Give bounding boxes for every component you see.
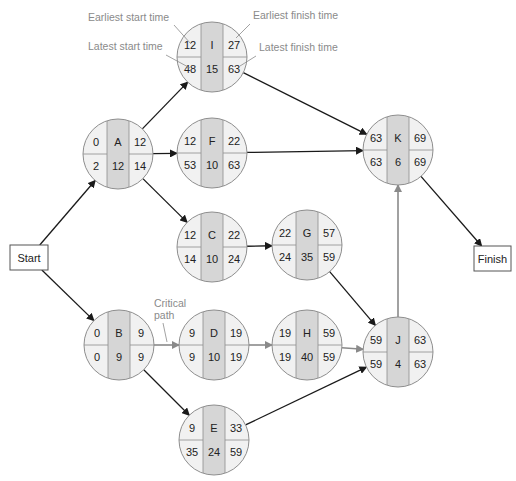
- edge-k-to-finish: [421, 176, 482, 246]
- node-c-latest-start: 14: [184, 253, 196, 265]
- edge-h-to-j-critical: [342, 348, 363, 350]
- node-e-latest-start: 35: [186, 446, 198, 458]
- node-e-earliest-start: 9: [189, 422, 195, 434]
- earliest-finish-label: Earliest finish time: [253, 9, 338, 21]
- node-j-latest-finish: 63: [414, 358, 426, 370]
- node-k-earliest-finish: 69: [414, 132, 426, 144]
- node-b-earliest-finish: 9: [138, 327, 144, 339]
- node-e-activity-label: E: [210, 422, 217, 434]
- critical-path-pointer: [163, 323, 167, 342]
- node-c-duration: 10: [206, 253, 218, 265]
- node-i-latest-start: 48: [184, 63, 196, 75]
- node-f-earliest-start: 12: [184, 135, 196, 147]
- start-box: Start: [10, 245, 48, 270]
- edge-b-to-e: [144, 370, 190, 416]
- node-e-duration: 24: [208, 446, 220, 458]
- node-j-activity-label: J: [395, 334, 401, 346]
- node-e-earliest-finish: 33: [230, 422, 242, 434]
- edge-a-to-i: [142, 82, 187, 129]
- node-k-activity-label: K: [394, 132, 402, 144]
- critical-path-label-line2: path: [154, 309, 175, 321]
- node-g-earliest-finish: 57: [323, 227, 335, 239]
- node-d-latest-start: 9: [189, 351, 195, 363]
- earliest-start-label: Earliest start time: [88, 11, 169, 23]
- activity-node-a: 0A1221214: [83, 119, 153, 189]
- node-f-earliest-finish: 22: [228, 135, 240, 147]
- node-k-latest-start: 63: [370, 156, 382, 168]
- activity-node-c: 12C22141024: [177, 212, 247, 282]
- node-f-duration: 10: [206, 159, 218, 171]
- activity-node-g: 22G57243559: [272, 210, 342, 280]
- node-j-latest-start: 59: [370, 358, 382, 370]
- node-i-activity-label: I: [210, 39, 213, 51]
- node-h-latest-start: 19: [279, 351, 291, 363]
- edge-f-to-k: [247, 151, 363, 153]
- node-j-duration: 4: [395, 358, 401, 370]
- activity-node-b: 0B9099: [84, 310, 154, 380]
- earliest-finish-pointer: [236, 24, 250, 38]
- node-h-activity-label: H: [303, 327, 311, 339]
- latest-finish-label: Latest finish time: [259, 41, 338, 53]
- node-g-duration: 35: [301, 251, 313, 263]
- node-h-earliest-finish: 59: [323, 327, 335, 339]
- node-c-activity-label: C: [208, 229, 216, 241]
- node-d-earliest-finish: 19: [230, 327, 242, 339]
- node-i-earliest-finish: 27: [228, 39, 240, 51]
- node-d-duration: 10: [208, 351, 220, 363]
- latest-start-label: Latest start time: [88, 40, 163, 52]
- node-h-earliest-start: 19: [279, 327, 291, 339]
- node-j-earliest-start: 59: [370, 334, 382, 346]
- node-b-activity-label: B: [115, 327, 122, 339]
- node-a-earliest-start: 0: [93, 136, 99, 148]
- edge-start-to-a: [40, 181, 95, 245]
- node-i-duration: 15: [206, 63, 218, 75]
- node-a-latest-finish: 14: [134, 160, 146, 172]
- finish-box: Finish: [474, 246, 511, 271]
- activity-node-h: 19H59194059: [272, 310, 342, 380]
- edge-g-to-j: [330, 272, 376, 326]
- node-a-duration: 12: [112, 160, 124, 172]
- node-h-latest-finish: 59: [323, 351, 335, 363]
- node-k-earliest-start: 63: [370, 132, 382, 144]
- node-a-earliest-finish: 12: [134, 136, 146, 148]
- node-b-earliest-start: 0: [94, 327, 100, 339]
- node-j-earliest-finish: 63: [414, 334, 426, 346]
- node-g-earliest-start: 22: [279, 227, 291, 239]
- node-e-latest-finish: 59: [230, 446, 242, 458]
- node-d-activity-label: D: [210, 327, 218, 339]
- node-g-activity-label: G: [303, 227, 312, 239]
- activity-node-e: 9E33352459: [179, 405, 249, 475]
- activity-node-j: 59J6359463: [363, 317, 433, 387]
- node-c-earliest-finish: 22: [228, 229, 240, 241]
- critical-path-label-line1: Critical: [154, 297, 186, 309]
- node-b-duration: 9: [116, 351, 122, 363]
- activity-node-f: 12F22531063: [177, 118, 247, 188]
- activity-network-diagram: 12I274815630A122121412F2253106363K696366…: [0, 0, 516, 481]
- node-b-latest-finish: 9: [138, 351, 144, 363]
- node-i-latest-finish: 63: [228, 63, 240, 75]
- edge-start-to-b: [42, 270, 94, 321]
- node-a-activity-label: A: [114, 136, 122, 148]
- node-f-latest-start: 53: [184, 159, 196, 171]
- node-f-latest-finish: 63: [228, 159, 240, 171]
- node-h-duration: 40: [301, 351, 313, 363]
- node-k-latest-finish: 69: [414, 156, 426, 168]
- node-k-duration: 6: [395, 156, 401, 168]
- activity-node-d: 9D1991019: [179, 310, 249, 380]
- finish-label: Finish: [478, 253, 507, 265]
- node-g-latest-start: 24: [279, 251, 291, 263]
- node-d-earliest-start: 9: [189, 327, 195, 339]
- node-c-latest-finish: 24: [228, 253, 240, 265]
- nodes-layer: 12I274815630A122121412F2253106363K696366…: [83, 22, 433, 475]
- node-d-latest-finish: 19: [230, 351, 242, 363]
- start-label: Start: [17, 252, 40, 264]
- node-a-latest-start: 2: [93, 160, 99, 172]
- edge-a-to-c: [143, 179, 187, 223]
- edge-i-to-k: [243, 73, 366, 135]
- node-g-latest-finish: 59: [323, 251, 335, 263]
- node-i-earliest-start: 12: [184, 39, 196, 51]
- node-c-earliest-start: 12: [184, 229, 196, 241]
- node-f-activity-label: F: [209, 135, 216, 147]
- edge-c-to-g: [247, 246, 272, 247]
- node-b-latest-start: 0: [94, 351, 100, 363]
